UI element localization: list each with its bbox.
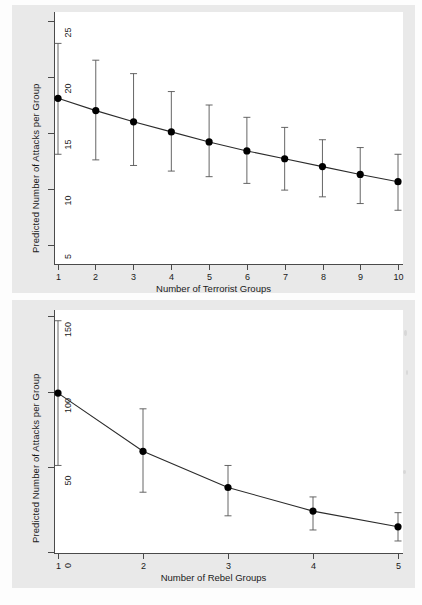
scan-artifact bbox=[403, 470, 406, 474]
chart1-series-layer bbox=[12, 5, 415, 293]
chart2-series-layer bbox=[12, 300, 415, 588]
chart-panel-terrorist-groups: 25 20 15 10 5 Predicted Number of Attack… bbox=[12, 5, 415, 293]
scan-artifact bbox=[406, 370, 408, 375]
chart-panel-rebel-groups: 150 100 50 0 Predicted Number of Attacks… bbox=[12, 300, 415, 588]
figure-page: 25 20 15 10 5 Predicted Number of Attack… bbox=[0, 0, 422, 605]
scan-artifact bbox=[404, 330, 407, 336]
